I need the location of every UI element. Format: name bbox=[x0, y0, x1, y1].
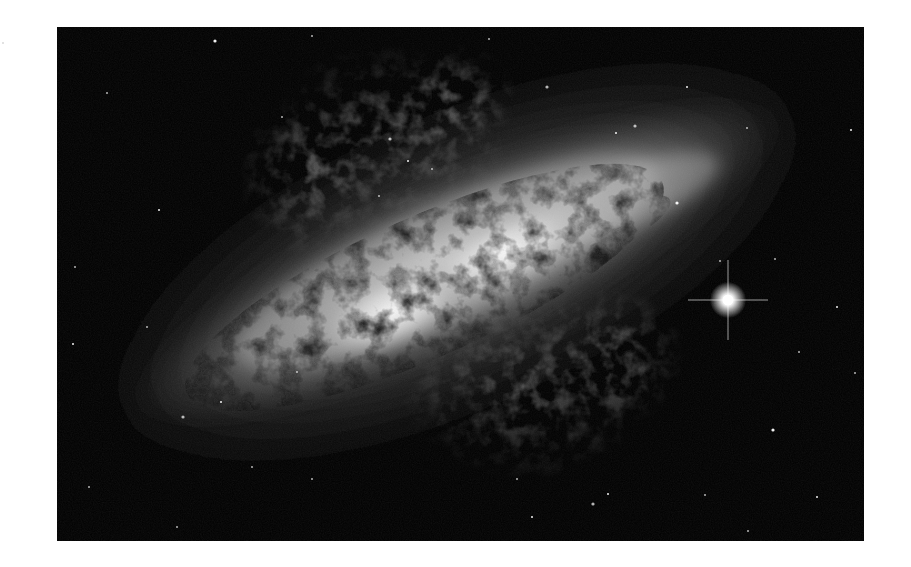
field-star bbox=[774, 258, 776, 260]
field-star bbox=[106, 92, 108, 94]
field-star bbox=[488, 38, 490, 40]
field-star bbox=[146, 326, 148, 328]
field-star bbox=[545, 85, 548, 88]
field-star bbox=[311, 478, 313, 480]
field-star bbox=[431, 168, 433, 170]
field-star bbox=[633, 124, 636, 127]
field-star bbox=[836, 306, 838, 308]
field-star bbox=[74, 266, 76, 268]
field-star bbox=[388, 137, 391, 140]
field-star bbox=[158, 209, 160, 211]
galaxy-photo bbox=[57, 27, 864, 541]
field-star bbox=[251, 466, 253, 468]
field-star bbox=[686, 86, 688, 88]
field-star bbox=[746, 127, 748, 129]
field-star bbox=[88, 486, 90, 488]
field-star bbox=[181, 415, 184, 418]
field-star bbox=[798, 351, 800, 353]
field-star bbox=[615, 132, 617, 134]
field-star bbox=[816, 496, 818, 498]
field-star bbox=[378, 195, 380, 197]
galaxy-image bbox=[57, 27, 864, 541]
field-star bbox=[213, 39, 216, 42]
field-star bbox=[296, 371, 298, 373]
field-star bbox=[747, 530, 749, 532]
field-star bbox=[176, 526, 178, 528]
page bbox=[0, 0, 911, 567]
field-star bbox=[72, 343, 74, 345]
field-star bbox=[607, 493, 609, 495]
field-star bbox=[850, 129, 852, 131]
field-star bbox=[281, 116, 283, 118]
field-star bbox=[854, 372, 856, 374]
field-star bbox=[407, 160, 409, 162]
field-star bbox=[516, 478, 518, 480]
grain-overlay bbox=[57, 27, 864, 541]
field-star bbox=[591, 502, 594, 505]
field-star bbox=[311, 35, 313, 37]
field-star bbox=[771, 428, 774, 431]
edge-speck bbox=[2, 42, 4, 44]
field-star bbox=[220, 401, 222, 403]
field-star bbox=[719, 260, 721, 262]
field-star bbox=[675, 201, 678, 204]
field-star bbox=[531, 516, 533, 518]
field-star bbox=[704, 494, 706, 496]
